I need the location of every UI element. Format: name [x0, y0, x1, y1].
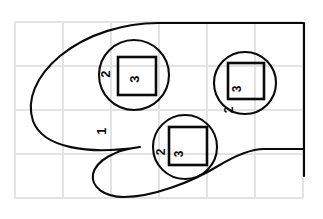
region-diagram-svg: 1 2 3 2 3 2 3 — [0, 0, 323, 219]
circle-top-left-inner-label: 3 — [127, 75, 142, 82]
circle-top-left-outer-label: 2 — [98, 70, 113, 77]
outer-region-label: 1 — [94, 127, 109, 134]
circle-right-group: 2 3 — [214, 52, 276, 114]
circle-bottom-center-inner-square — [169, 127, 207, 165]
circle-right-outer-label: 2 — [222, 106, 236, 113]
circle-right-inner-square — [228, 63, 264, 99]
circle-right-inner-label: 3 — [230, 85, 244, 92]
circle-bottom-center-group: 2 3 — [153, 115, 217, 179]
figure-canvas: 1 2 3 2 3 2 3 — [0, 0, 323, 219]
circle-bottom-center-outer-label: 2 — [154, 148, 168, 155]
circle-right-outline — [214, 52, 276, 114]
circle-bottom-center-inner-label: 3 — [172, 150, 186, 157]
